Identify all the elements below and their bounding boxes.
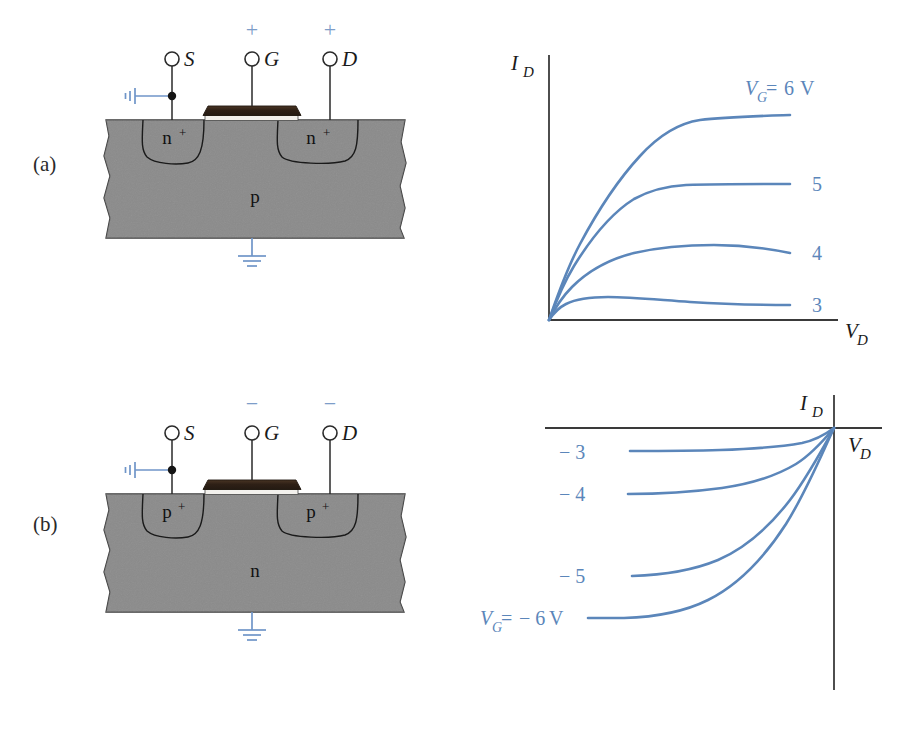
source-terminal-b[interactable] bbox=[165, 426, 179, 440]
gate-terminal-label-b: G bbox=[264, 421, 279, 445]
gate-electrode-b bbox=[203, 480, 301, 490]
drain-doping-label-b: p bbox=[306, 501, 316, 522]
nmos-series-label-2: 4 bbox=[812, 242, 822, 264]
substrate-texture-a bbox=[104, 120, 406, 238]
gate-polarity-sign-a: + bbox=[246, 17, 258, 42]
drain-terminal-b[interactable] bbox=[323, 426, 337, 440]
pmos-y-axis-label-sub: D bbox=[811, 404, 823, 420]
nmos-series-label-0: 6 bbox=[784, 77, 794, 99]
source-doping-sup-b: + bbox=[178, 499, 185, 514]
pmos-series-label-3: − 6 bbox=[519, 607, 545, 629]
background bbox=[0, 0, 914, 732]
nmos-label-vg-eq: = bbox=[766, 77, 777, 99]
source-junction-dot-a bbox=[168, 92, 176, 100]
drain-doping-sup-b: + bbox=[322, 499, 329, 514]
substrate-doping-label-a: p bbox=[250, 186, 260, 207]
source-terminal-label-a: S bbox=[184, 47, 195, 71]
gate-electrode-a bbox=[203, 106, 301, 116]
drain-doping-sup-a: + bbox=[323, 125, 330, 140]
gate-terminal-a[interactable] bbox=[245, 52, 259, 66]
pmos-series-label-0: − 3 bbox=[559, 441, 585, 463]
pmos-y-axis-label: I bbox=[799, 391, 808, 415]
pmos-series-label-2: − 5 bbox=[559, 565, 585, 587]
pmos-label-vg-eq: = bbox=[501, 607, 512, 629]
panel-a-label: (a) bbox=[33, 152, 56, 176]
substrate-texture-b bbox=[104, 494, 406, 612]
gate-terminal-label-a: G bbox=[264, 47, 279, 71]
mosfet-figure: (a) n + n + p S G D + + bbox=[0, 0, 914, 732]
nmos-y-axis-label: I bbox=[510, 51, 519, 75]
gate-polarity-sign-b: − bbox=[246, 391, 258, 416]
drain-polarity-sign-a: + bbox=[324, 17, 336, 42]
nmos-y-axis-label-sub: D bbox=[522, 64, 534, 80]
source-terminal-label-b: S bbox=[184, 421, 195, 445]
drain-terminal-label-b: D bbox=[341, 421, 357, 445]
source-doping-label-b: p bbox=[162, 501, 172, 522]
source-junction-dot-b bbox=[168, 466, 176, 474]
nmos-series-label-3: 3 bbox=[812, 294, 822, 316]
source-doping-label-a: n bbox=[162, 127, 172, 148]
source-doping-sup-a: + bbox=[179, 125, 186, 140]
gate-oxide-a bbox=[205, 116, 298, 121]
panel-b-label: (b) bbox=[33, 512, 58, 536]
gate-oxide-b bbox=[205, 490, 298, 495]
drain-terminal-a[interactable] bbox=[323, 52, 337, 66]
drain-terminal-label-a: D bbox=[341, 47, 357, 71]
figure-canvas: (a) n + n + p S G D + + bbox=[0, 0, 914, 732]
substrate-doping-label-b: n bbox=[250, 560, 260, 581]
nmos-x-axis-label-sub: D bbox=[856, 332, 868, 348]
drain-doping-label-a: n bbox=[306, 127, 316, 148]
nmos-series-label-1: 5 bbox=[812, 173, 822, 195]
source-terminal-a[interactable] bbox=[165, 52, 179, 66]
gate-terminal-b[interactable] bbox=[245, 426, 259, 440]
pmos-x-axis-label-sub: D bbox=[859, 446, 871, 462]
pmos-series-label-1: − 4 bbox=[559, 483, 585, 505]
drain-polarity-sign-b: − bbox=[324, 391, 336, 416]
nmos-label-vg-units: V bbox=[800, 77, 815, 99]
pmos-label-vg-units: V bbox=[549, 607, 564, 629]
